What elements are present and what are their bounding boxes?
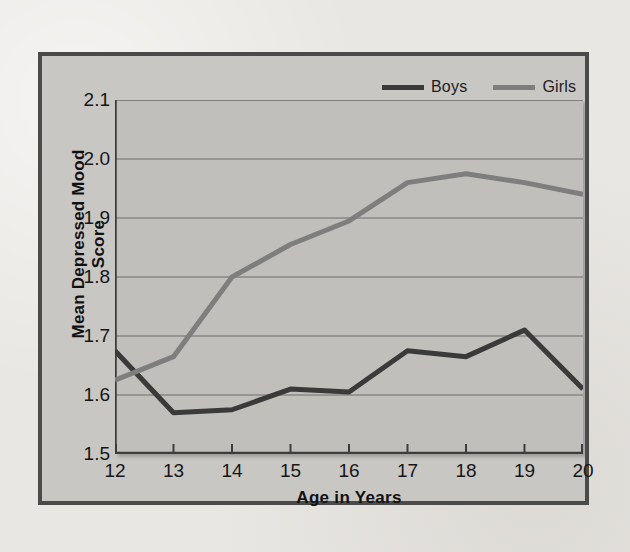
x-axis-tick-marks [116,444,582,453]
figure-panel: Boys Girls 2.1 2.0 1.9 1.8 1.7 1.6 1.5 M… [38,52,589,505]
gridlines [115,100,583,395]
chart-svg [115,100,583,454]
plot-wrapper [115,100,583,454]
legend-entry-girls: Girls [493,78,576,96]
x-tick-label: 14 [212,460,252,482]
x-tick-label: 13 [154,460,194,482]
x-tick-label: 12 [95,460,135,482]
y-axis-title: Mean Depressed Mood Score [69,129,109,359]
x-tick-label: 20 [563,460,603,482]
x-tick-label: 15 [271,460,311,482]
legend-label-boys: Boys [431,78,467,96]
legend-label-girls: Girls [542,78,576,96]
legend-swatch-girls [493,85,535,90]
data-series [115,174,583,413]
x-axis-tick-labels: 12 13 14 15 16 17 18 19 20 [115,460,583,486]
x-tick-label: 17 [388,460,428,482]
x-tick-label: 19 [505,460,545,482]
y-tick-label: 2.1 [66,89,110,111]
x-axis-title: Age in Years [115,488,583,508]
x-tick-label: 16 [329,460,369,482]
chart-legend: Boys Girls [382,78,576,96]
x-tick-label: 18 [446,460,486,482]
legend-entry-boys: Boys [382,78,467,96]
legend-swatch-boys [382,85,424,90]
y-tick-label: 1.6 [66,384,110,406]
